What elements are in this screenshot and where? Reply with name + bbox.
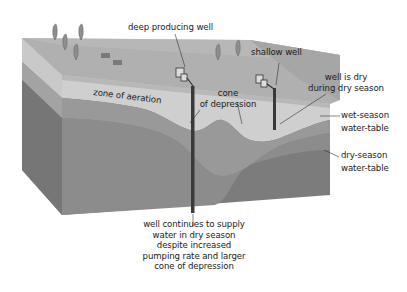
label-well-continues-line-1: well continues to supply (133, 219, 255, 230)
label-well-continues-line-2: water in dry season (133, 230, 255, 241)
label-dry-season-line-1: dry-season (341, 150, 389, 161)
groundwater-diagram: deep producing well shallow well zone of… (0, 0, 407, 292)
label-dry-season-line-2: water-table (341, 163, 389, 174)
label-well-is-dry-line-2: during dry season (306, 83, 386, 94)
label-well-continues: well continues to supply water in dry se… (133, 219, 255, 272)
label-well-is-dry-line-1: well is dry (306, 72, 386, 83)
label-wet-season-line-1: wet-season (341, 110, 389, 121)
label-cone-line-2: of depression (198, 99, 258, 110)
label-wet-season-water-table: wet-season water-table (341, 110, 389, 133)
label-shallow-well: shallow well (251, 47, 302, 58)
label-dry-season-water-table: dry-season water-table (341, 150, 389, 173)
label-well-continues-line-3: despite increased (133, 240, 255, 251)
label-deep-producing-well: deep producing well (128, 22, 213, 33)
label-cone-of-depression: cone of depression (198, 88, 258, 109)
label-well-continues-line-5: cone of depression (133, 261, 255, 272)
label-well-is-dry: well is dry during dry season (306, 72, 386, 93)
label-well-continues-line-4: pumping rate and larger (133, 251, 255, 262)
label-cone-line-1: cone (198, 88, 258, 99)
label-wet-season-line-2: water-table (341, 123, 389, 134)
